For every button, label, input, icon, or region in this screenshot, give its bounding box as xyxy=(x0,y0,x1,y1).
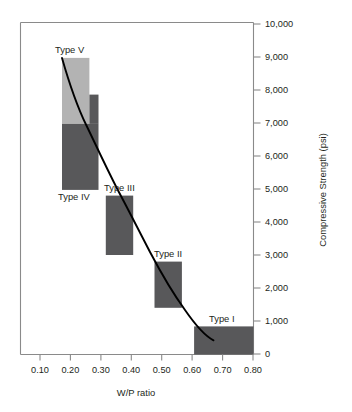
y-tick-label-1000: 1,000 xyxy=(265,316,288,326)
y-axis-title: Compressive Strength (psi) xyxy=(317,133,328,247)
y-tick-label-3000: 3,000 xyxy=(265,250,288,260)
x-tick-label-0.30: 0.30 xyxy=(92,365,110,375)
bar-label-type-iii: Type III xyxy=(104,182,135,193)
bar-label-type-v: Type V xyxy=(55,44,85,55)
x-tick-label-0.80: 0.80 xyxy=(244,365,262,375)
bar-type-iii xyxy=(106,196,133,255)
bar-type-iv-lower xyxy=(62,124,99,190)
bar-type-v xyxy=(62,58,89,124)
bar-type-iv-upper-step xyxy=(89,95,98,124)
chart-svg: 0.10 0.20 0.30 0.40 0.50 0.60 0.70 0.80 … xyxy=(0,0,352,412)
y-tick-label-5000: 5,000 xyxy=(265,184,288,194)
bar-label-type-i: Type I xyxy=(209,313,235,324)
y-tick-label-2000: 2,000 xyxy=(265,283,288,293)
x-tick-label-0.70: 0.70 xyxy=(214,365,232,375)
y-tick-label-8000: 8,000 xyxy=(265,85,288,95)
bar-type-i xyxy=(194,326,253,354)
y-tick-label-0: 0 xyxy=(265,349,270,359)
x-tick-label-0.60: 0.60 xyxy=(183,365,201,375)
x-axis-title: W/P ratio xyxy=(117,387,155,398)
y-tick-label-4000: 4,000 xyxy=(265,217,288,227)
bar-label-type-ii: Type II xyxy=(154,248,182,259)
y-tick-label-7000: 7,000 xyxy=(265,118,288,128)
x-tick-label-0.10: 0.10 xyxy=(31,365,49,375)
y-tick-label-6000: 6,000 xyxy=(265,151,288,161)
y-tick-label-10000: 10,000 xyxy=(265,19,293,29)
y-tick-label-9000: 9,000 xyxy=(265,52,288,62)
compressive-strength-chart: 0.10 0.20 0.30 0.40 0.50 0.60 0.70 0.80 … xyxy=(0,0,352,412)
x-tick-label-0.20: 0.20 xyxy=(61,365,79,375)
x-tick-label-0.50: 0.50 xyxy=(153,365,171,375)
bar-label-type-iv: Type IV xyxy=(58,191,91,202)
x-tick-label-0.40: 0.40 xyxy=(122,365,140,375)
chart-background xyxy=(0,0,352,412)
